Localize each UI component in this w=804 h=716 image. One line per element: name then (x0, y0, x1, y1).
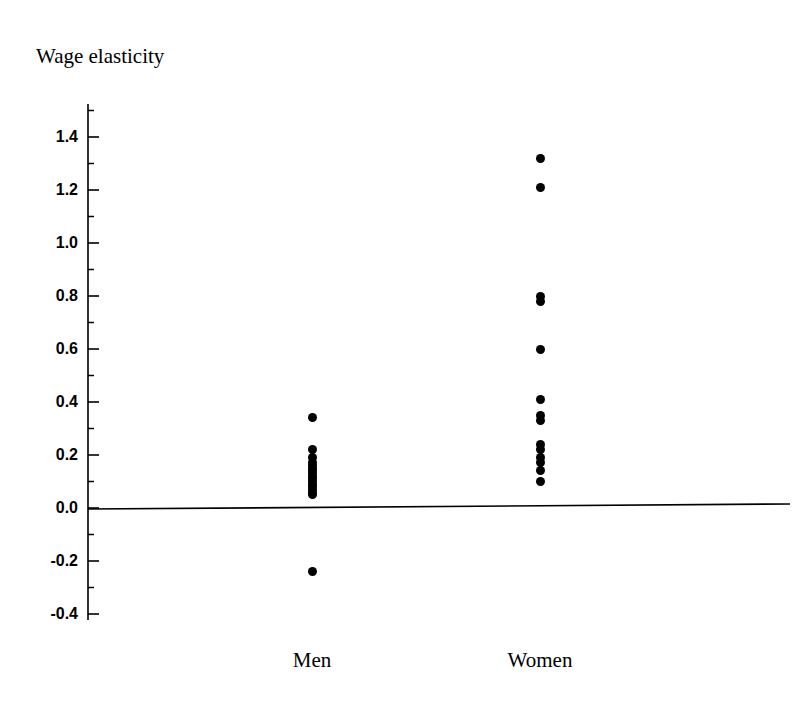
data-point (536, 345, 545, 354)
data-point (536, 395, 545, 404)
data-point (308, 490, 317, 499)
y-tick-label: 0.4 (22, 393, 78, 411)
zero-reference-line (88, 504, 790, 509)
plot-canvas (0, 0, 804, 716)
y-tick-label: -0.4 (22, 605, 78, 623)
y-tick-label: 1.0 (22, 234, 78, 252)
y-tick-label: 0.2 (22, 446, 78, 464)
category-label-men: Men (293, 648, 332, 673)
data-point (308, 413, 317, 422)
data-point (536, 477, 545, 486)
data-point (536, 183, 545, 192)
y-tick-label: -0.2 (22, 552, 78, 570)
figure-root: Wage elasticity -0.4-0.20.00.20.40.60.81… (0, 0, 804, 716)
y-tick-label: 1.4 (22, 128, 78, 146)
y-tick-label: 1.2 (22, 181, 78, 199)
y-tick-label: 0.6 (22, 340, 78, 358)
y-tick-label: 0.0 (22, 499, 78, 517)
category-label-women: Women (508, 648, 573, 673)
data-point (536, 416, 545, 425)
y-tick-label: 0.8 (22, 287, 78, 305)
data-point (308, 567, 317, 576)
data-point (536, 466, 545, 475)
data-point (536, 297, 545, 306)
scatter-plot: -0.4-0.20.00.20.40.60.81.01.21.4 MenWome… (0, 0, 804, 716)
data-point (536, 154, 545, 163)
